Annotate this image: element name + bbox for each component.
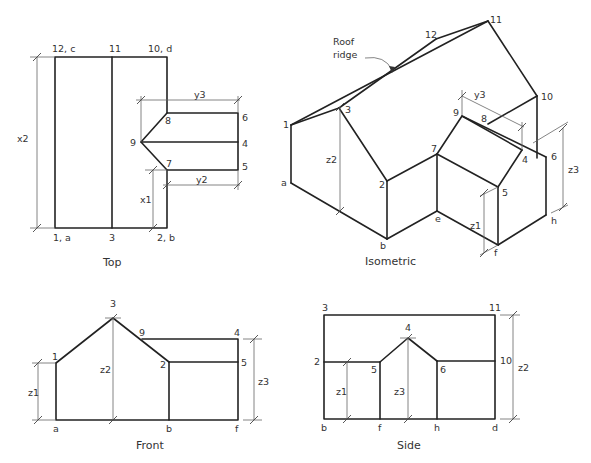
side-label-2: 2	[314, 356, 320, 367]
top-label-5: 5	[242, 161, 248, 172]
front-label-4: 4	[234, 327, 240, 338]
iso-label-10: 10	[541, 91, 553, 102]
iso-dim-y3-label: y3	[474, 89, 486, 100]
front-label-1: 1	[52, 351, 58, 362]
front-label-3: 3	[110, 298, 116, 309]
front-label-a: a	[53, 423, 59, 434]
iso-dim-z3-label: z3	[568, 164, 579, 175]
side-dim-z2-label: z2	[518, 362, 529, 373]
iso-label-12: 12	[425, 29, 437, 40]
iso-label-5: 5	[502, 187, 508, 198]
side-label-11: 11	[489, 302, 501, 313]
top-label-12c: 12, c	[52, 43, 75, 54]
front-label-b: b	[166, 423, 172, 434]
front-label-5: 5	[241, 357, 247, 368]
top-label-8: 8	[165, 115, 171, 126]
roof-ridge-leader	[365, 58, 392, 71]
top-dim-x2: x2	[17, 133, 29, 144]
iso-dim-y3	[462, 96, 524, 127]
iso-label-8: 8	[481, 113, 487, 124]
front-view: 3 9 4 1 2 5 a b f z1 z2 z3 Front	[28, 298, 269, 452]
iso-dim-z2-label: z2	[326, 154, 337, 165]
multiview-drawing: 12, c 11 10, d 8 6 9 4 7 5 1, a 3 2, b x…	[0, 0, 591, 463]
iso-label-3: 3	[345, 104, 351, 115]
top-label-6: 6	[242, 112, 248, 123]
top-label-1a: 1, a	[53, 232, 71, 243]
top-label-11: 11	[109, 43, 121, 54]
isometric-caption: Isometric	[365, 255, 416, 268]
top-dim-y3: y3	[194, 89, 206, 100]
top-caption: Top	[102, 256, 122, 269]
front-dim-z3-label: z3	[258, 376, 269, 387]
top-view: 12, c 11 10, d 8 6 9 4 7 5 1, a 3 2, b x…	[17, 43, 248, 269]
front-label-9: 9	[139, 327, 145, 338]
iso-label-1: 1	[283, 119, 289, 130]
front-label-2: 2	[160, 359, 166, 370]
top-label-7: 7	[166, 158, 172, 169]
side-label-6: 6	[440, 364, 446, 375]
front-dim-z1-label: z1	[28, 387, 39, 398]
side-label-f: f	[378, 422, 382, 433]
side-dim-z1-label: z1	[336, 386, 347, 397]
iso-label-7: 7	[431, 143, 437, 154]
iso-label-b: b	[380, 240, 386, 251]
iso-label-f: f	[494, 247, 498, 258]
side-wing-gable	[380, 338, 437, 362]
iso-label-4: 4	[522, 154, 528, 165]
front-label-f: f	[235, 423, 239, 434]
iso-label-6: 6	[551, 151, 557, 162]
side-label-4: 4	[405, 322, 411, 333]
front-dim-z2-label: z2	[100, 364, 111, 375]
iso-label-11: 11	[490, 14, 502, 25]
top-dim-y2: y2	[196, 174, 208, 185]
side-caption: Side	[397, 439, 421, 452]
side-view: 3 11 4 2 5 6 10 b f h d z1 z3 z2 Side	[314, 302, 529, 452]
top-label-4: 4	[242, 138, 248, 149]
top-label-10d: 10, d	[148, 43, 172, 54]
top-label-9: 9	[130, 137, 136, 148]
iso-label-9: 9	[453, 107, 459, 118]
front-outline	[56, 339, 238, 420]
front-caption: Front	[136, 439, 165, 452]
side-label-3: 3	[322, 302, 328, 313]
top-label-2b: 2, b	[157, 232, 175, 243]
iso-label-a: a	[281, 177, 287, 188]
side-label-d: d	[492, 422, 498, 433]
side-dim-z3-label: z3	[394, 386, 405, 397]
front-gable	[56, 318, 169, 363]
roof-ridge-label-line1: Roof	[333, 36, 355, 47]
side-label-10: 10	[500, 355, 512, 366]
roof-ridge-label-line2: ridge	[333, 49, 358, 60]
iso-dim-z1-label: z1	[470, 220, 481, 231]
isometric-view: 12 11 10 1 3 9 8 7 4 6 a 2 5 e h b f z2 …	[281, 14, 579, 268]
iso-label-e: e	[435, 213, 441, 224]
iso-label-h: h	[551, 215, 557, 226]
iso-label-2: 2	[379, 179, 385, 190]
side-label-b: b	[321, 422, 327, 433]
side-label-5: 5	[371, 364, 377, 375]
top-label-3: 3	[109, 232, 115, 243]
top-dim-x1: x1	[140, 194, 152, 205]
side-label-h: h	[434, 422, 440, 433]
